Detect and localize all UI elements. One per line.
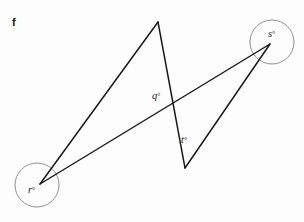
segment-r-to-apex bbox=[40, 22, 158, 184]
degree-symbol-s: ° bbox=[272, 30, 275, 39]
segment-r-to-s bbox=[40, 44, 270, 184]
segment-apex-to-vee bbox=[158, 22, 185, 168]
degree-symbol-q: ° bbox=[157, 92, 160, 101]
geometry-figure-canvas: f r° s° q° t° bbox=[0, 0, 304, 222]
figure-label-f: f bbox=[12, 16, 16, 28]
degree-symbol-r: ° bbox=[32, 186, 35, 195]
angle-label-s: s° bbox=[268, 28, 275, 39]
degree-symbol-t: ° bbox=[184, 136, 187, 145]
angle-highlight-circle-r bbox=[15, 163, 59, 207]
angle-label-t: t° bbox=[181, 134, 187, 145]
angle-highlight-circle-s bbox=[250, 20, 294, 64]
segment-vee-to-s bbox=[185, 44, 270, 168]
angle-label-q: q° bbox=[152, 90, 160, 101]
geometry-diagram: f r° s° q° t° bbox=[0, 0, 304, 222]
angle-label-r: r° bbox=[28, 184, 35, 195]
